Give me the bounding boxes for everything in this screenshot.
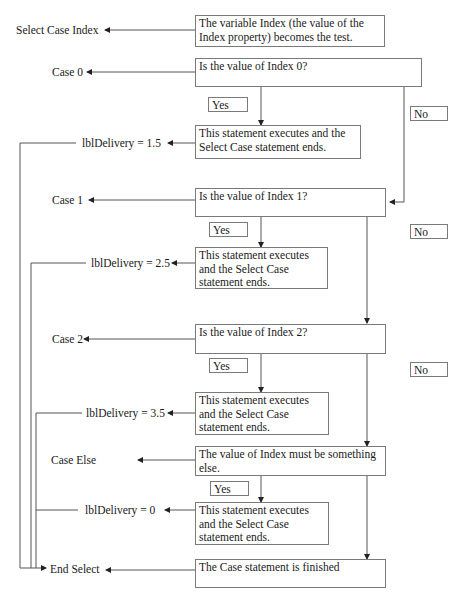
assign-0-label: lblDelivery = 1.5 — [82, 137, 161, 150]
case-0-label: Case 0 — [52, 66, 83, 79]
no-label-0: No — [410, 106, 448, 121]
yes-label-else: Yes — [210, 481, 249, 496]
execute-2-box: This statement executes and the Select C… — [195, 392, 329, 435]
yes-label-2: Yes — [209, 358, 248, 373]
assign-else-label: lblDelivery = 0 — [85, 504, 155, 517]
question-2-box: Is the value of Index 2? — [195, 324, 386, 354]
case-1-label: Case 1 — [52, 194, 83, 207]
case-else-label: Case Else — [51, 454, 96, 467]
case-else-box: The value of Index must be something els… — [195, 446, 386, 476]
yes-label-0: Yes — [208, 97, 248, 112]
yes-label-1: Yes — [209, 222, 248, 237]
question-0-box: Is the value of Index 0? — [195, 58, 422, 87]
question-1-box: Is the value of Index 1? — [195, 188, 386, 217]
assign-1-label: lblDelivery = 2.5 — [91, 257, 170, 270]
end-select-label: End Select — [50, 563, 100, 576]
no-label-2: No — [410, 362, 448, 377]
no-label-1: No — [410, 224, 448, 239]
assign-2-label: lblDelivery = 3.5 — [86, 407, 165, 420]
finished-box: The Case statement is finished — [195, 559, 386, 588]
test-box: The variable Index (the value of the Ind… — [195, 15, 385, 47]
execute-1-box: This statement executes and the Select C… — [195, 247, 328, 289]
execute-else-box: This statement executes and the Select C… — [195, 502, 329, 545]
select-case-label: Select Case Index — [16, 24, 98, 37]
case-2-label: Case 2 — [52, 333, 83, 346]
execute-0-box: This statement executes and the Select C… — [195, 125, 361, 159]
